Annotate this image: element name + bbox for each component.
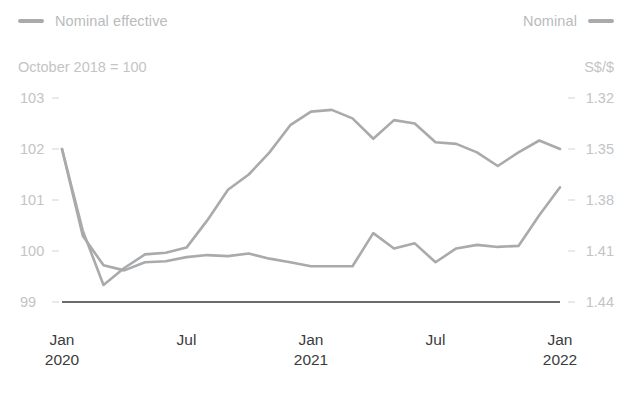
- right-axis-tick-label: 1.44: [586, 294, 614, 310]
- left-axis-tick-label: 100: [20, 243, 44, 259]
- right-axis-tick-label: 1.38: [586, 192, 614, 208]
- right-axis-tick-mark: [568, 98, 575, 99]
- left-axis-tick-label: 102: [20, 141, 44, 157]
- right-axis-tick-mark: [568, 149, 575, 150]
- x-axis-tick-year: 2021: [294, 349, 328, 370]
- x-axis-tick-label: Jul: [177, 330, 197, 349]
- right-axis-tick-mark: [568, 200, 575, 201]
- right-axis-tick-label: 1.32: [586, 90, 614, 106]
- x-axis-tick-year: 2022: [543, 349, 577, 370]
- series-layer: [62, 110, 560, 285]
- left-axis-tick-mark: [52, 200, 59, 201]
- left-axis-tick-mark: [52, 251, 59, 252]
- right-axis-tick-mark: [568, 302, 575, 303]
- x-axis-tick-label: Jul: [426, 330, 446, 349]
- x-axis-tick-month: Jan: [45, 330, 79, 349]
- right-axis-tick-label: 1.41: [586, 243, 614, 259]
- x-axis-tick-month: Jan: [543, 330, 577, 349]
- left-axis-tick-label: 103: [20, 90, 44, 106]
- left-axis-tick-mark: [52, 302, 59, 303]
- right-axis-tick-mark: [568, 251, 575, 252]
- series-line-nominal: [62, 110, 560, 285]
- x-axis-tick-month: Jul: [426, 330, 446, 349]
- x-axis-tick-month: Jul: [177, 330, 197, 349]
- x-axis-tick-label: Jan2022: [543, 330, 577, 370]
- right-axis-tick-label: 1.35: [586, 141, 614, 157]
- x-axis-tick-year: 2020: [45, 349, 79, 370]
- chart-root: Nominal effective Nominal October 2018 =…: [0, 0, 628, 400]
- left-axis-tick-mark: [52, 98, 59, 99]
- left-axis-tick-mark: [52, 149, 59, 150]
- x-axis-tick-label: Jan2021: [294, 330, 328, 370]
- x-axis-tick-label: Jan2020: [45, 330, 79, 370]
- series-line-nominal-effective: [62, 149, 560, 270]
- left-axis-tick-label: 101: [20, 192, 44, 208]
- x-axis-tick-month: Jan: [294, 330, 328, 349]
- left-axis-tick-label: 99: [20, 294, 36, 310]
